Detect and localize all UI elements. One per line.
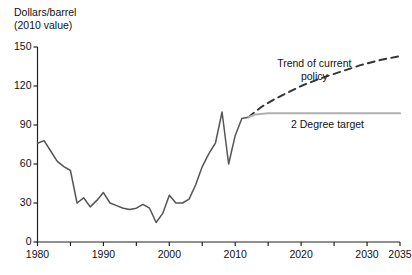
y-axis-tick-label: 150 [6, 41, 32, 52]
trend-of-current-policy-label: Trend of currentpolicy [277, 57, 351, 83]
x-axis-tick-label: 2030 [355, 249, 378, 260]
x-axis-tick-label: 2020 [289, 249, 312, 260]
y-axis-tick-label: 30 [6, 197, 32, 208]
x-axis-tick-label: 1980 [26, 249, 49, 260]
series-line-0 [38, 112, 249, 223]
y-axis-tick-label: 60 [6, 158, 32, 169]
plot-area [0, 0, 412, 275]
x-axis-tick-label: 1990 [92, 249, 115, 260]
y-axis-tick-label: 120 [6, 80, 32, 91]
y-axis-tick-label: 0 [6, 236, 32, 247]
trend-of-current-policy-label-line1: Trend of current [277, 57, 351, 70]
x-axis-tick-label: 2035 [388, 249, 411, 260]
two-degree-target-label-line1: 2 Degree target [291, 118, 364, 131]
trend-of-current-policy-label-line2: policy [277, 70, 351, 83]
oil-price-chart: Dollars/barrel (2010 value) 030609012015… [0, 0, 412, 275]
y-axis-tick-label: 90 [6, 119, 32, 130]
x-axis-tick-label: 2010 [224, 249, 247, 260]
series-line-2 [248, 113, 400, 117]
x-axis-tick-label: 2000 [158, 249, 181, 260]
two-degree-target-label: 2 Degree target [291, 118, 364, 131]
